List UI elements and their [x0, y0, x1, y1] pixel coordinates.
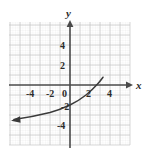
x-tick-label-2: 2 — [86, 88, 91, 99]
x-axis-name-label: x — [135, 79, 142, 91]
y-tick-label-minus2: -2 — [61, 101, 69, 112]
graph-canvas: -4 -2 0 2 4 4 2 -2 -4 y x — [0, 0, 148, 149]
x-tick-label-zero: 0 — [62, 88, 67, 99]
y-axis-name-label: y — [64, 7, 71, 19]
y-tick-label-2: 2 — [60, 60, 65, 71]
y-tick-label-4: 4 — [60, 40, 65, 51]
x-tick-label-minus2: -2 — [46, 88, 54, 99]
x-tick-label-4: 4 — [107, 88, 112, 99]
y-tick-label-minus4: -4 — [57, 120, 65, 131]
coordinate-graph-figure: -4 -2 0 2 4 4 2 -2 -4 y x — [0, 0, 148, 149]
x-tick-label-minus4: -4 — [26, 88, 34, 99]
